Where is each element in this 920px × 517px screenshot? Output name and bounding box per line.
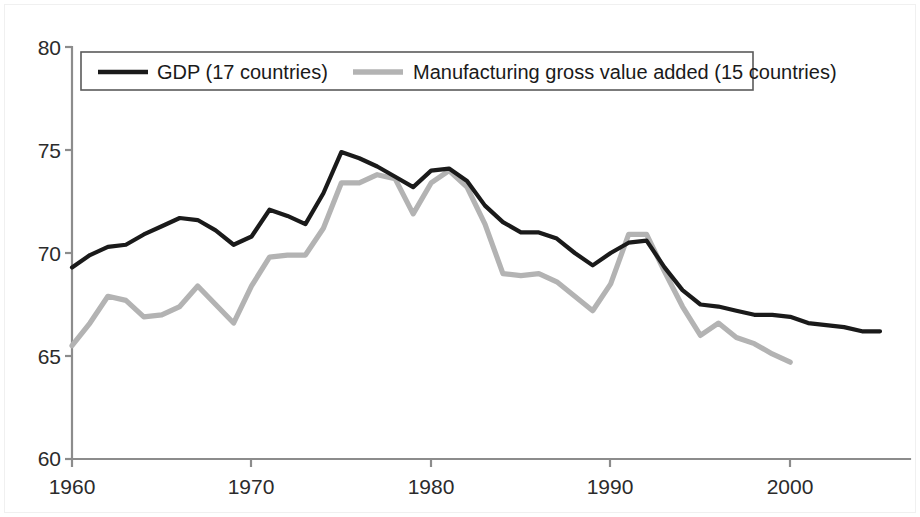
y-tick-label-80: 80 [38, 36, 61, 59]
legend-label-gdp: GDP (17 countries) [157, 61, 328, 83]
series-line-manufacturing [72, 171, 790, 363]
chart-figure: 80 75 70 65 60 [0, 0, 920, 517]
figure-frame: 80 75 70 65 60 [4, 4, 916, 513]
series-line-gdp [72, 152, 880, 331]
legend-label-manufacturing: Manufacturing gross value added (15 coun… [413, 61, 837, 83]
y-tick-label-60: 60 [38, 447, 61, 470]
x-axis-ticks [72, 459, 790, 467]
x-tick-label-2000: 2000 [767, 475, 814, 498]
line-chart: 80 75 70 65 60 [5, 5, 917, 514]
y-tick-label-65: 65 [38, 345, 61, 368]
x-tick-label-1990: 1990 [587, 475, 634, 498]
x-tick-label-1970: 1970 [228, 475, 275, 498]
y-axis-tick-labels: 80 75 70 65 60 [38, 36, 61, 470]
y-tick-label-70: 70 [38, 242, 61, 265]
x-axis-tick-labels: 1960 1970 1980 1990 2000 [49, 475, 814, 498]
y-tick-label-75: 75 [38, 139, 61, 162]
chart-legend: GDP (17 countries) Manufacturing gross v… [81, 52, 837, 90]
x-tick-label-1980: 1980 [408, 475, 455, 498]
x-tick-label-1960: 1960 [49, 475, 96, 498]
